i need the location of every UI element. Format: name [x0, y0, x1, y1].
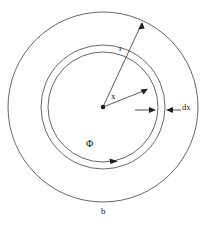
dx-left-arrowhead: [149, 107, 156, 113]
radius-x-label: x: [111, 92, 116, 101]
radius-r-arrowhead: [138, 22, 144, 30]
radius-r-leader-line: [103, 23, 142, 107]
flux-phi-label: Φ: [86, 139, 93, 149]
concentric-circles-svg: [0, 0, 213, 226]
diagram-canvas: r x dx Φ b: [0, 0, 213, 226]
outer-boundary-b-label: b: [101, 207, 106, 216]
radius-r-label: r: [119, 44, 122, 53]
thickness-dx-label: dx: [182, 103, 191, 112]
flux-direction-arrowhead: [110, 159, 119, 164]
